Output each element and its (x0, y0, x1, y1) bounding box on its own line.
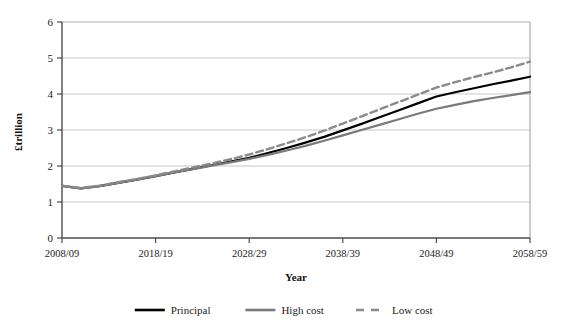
x-tick-label-2028/29: 2028/29 (232, 248, 266, 259)
x-axis-title: Year (285, 271, 307, 283)
x-tick-label-2058/59: 2058/59 (513, 248, 547, 259)
y-tick-label-0: 0 (48, 232, 54, 244)
y-tick-label-5: 5 (48, 52, 54, 64)
x-tick-label-2038/39: 2038/39 (326, 248, 360, 259)
chart-figure: 0123456 2008/092018/192028/292038/392048… (0, 0, 570, 329)
x-tick-label-2048/49: 2048/49 (419, 248, 453, 259)
legend-label-high-cost: High cost (281, 304, 323, 316)
y-tick-label-6: 6 (48, 16, 54, 28)
x-tick-label-2008/09: 2008/09 (45, 248, 79, 259)
y-axis-title: £trillion (12, 113, 24, 151)
y-tick-label-1: 1 (48, 196, 54, 208)
line-chart: 0123456 2008/092018/192028/292038/392048… (0, 0, 570, 329)
y-tick-label-2: 2 (48, 160, 54, 172)
y-tick-label-4: 4 (48, 88, 54, 100)
legend-label-low-cost: Low cost (392, 304, 433, 316)
legend-label-principal: Principal (171, 304, 211, 316)
x-tick-label-2018/19: 2018/19 (138, 248, 172, 259)
y-tick-label-3: 3 (48, 124, 54, 136)
